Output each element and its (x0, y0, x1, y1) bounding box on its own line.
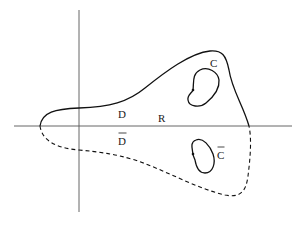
label-R: R (158, 112, 166, 124)
label-C-bar: C (217, 149, 224, 161)
label-D: D (118, 108, 126, 120)
contour-upper-marker (192, 89, 195, 92)
contour-upper (188, 69, 219, 106)
contour-lower (192, 139, 214, 173)
contour-lower-marker (192, 153, 195, 156)
label-C: C (210, 57, 217, 69)
label-D-bar: D (118, 135, 126, 147)
complex-plane-diagram: D R D C C (0, 0, 299, 225)
